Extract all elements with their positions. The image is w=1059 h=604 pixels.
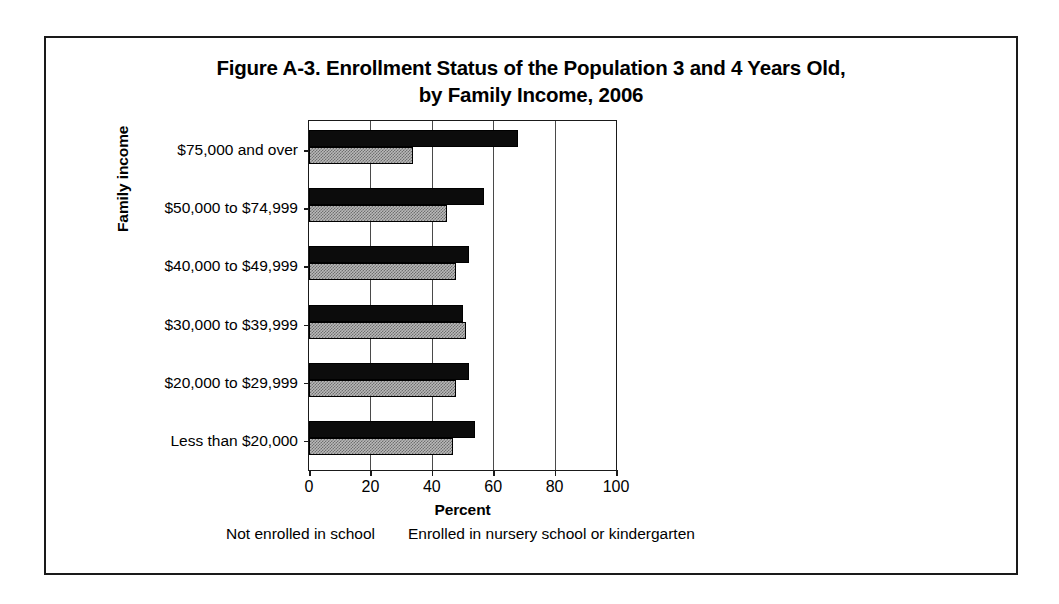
legend-entry-enrolled: Enrolled in nursery school or kindergart…: [408, 525, 695, 544]
x-tick-label-80: 80: [546, 479, 564, 495]
plot-area: Percent 020406080100$75,000 and over$50,…: [308, 120, 617, 471]
x-tick-60: [493, 470, 495, 476]
x-tick-label-100: 100: [603, 479, 630, 495]
bar-gray: [309, 263, 456, 280]
x-tick-40: [432, 470, 434, 476]
x-tick-label-20: 20: [361, 479, 379, 495]
y-axis-label: $30,000 to $39,999: [164, 317, 298, 333]
chart-title-line-2: by Family Income, 2006: [46, 81, 1016, 108]
bar-gray: [309, 380, 456, 397]
legend-entry-not-enrolled: Not enrolled in school: [226, 525, 375, 544]
bar-black: [309, 363, 469, 380]
bar-gray: [309, 147, 413, 164]
bar-black: [309, 421, 475, 438]
bar-black: [309, 305, 463, 322]
bar-black: [309, 246, 469, 263]
bar-group: $40,000 to $49,999: [309, 237, 616, 295]
y-axis-label: $75,000 and over: [177, 142, 298, 158]
y-axis-label: $40,000 to $49,999: [164, 258, 298, 274]
x-axis-title: Percent: [309, 501, 616, 519]
x-tick-0: [309, 470, 311, 476]
x-tick-label-60: 60: [484, 479, 502, 495]
x-tick-label-0: 0: [305, 479, 314, 495]
bar-group: $75,000 and over: [309, 121, 616, 179]
chart-legend: Not enrolled in school Enrolled in nurse…: [226, 525, 866, 547]
chart-title: Figure A-3. Enrollment Status of the Pop…: [46, 54, 1016, 108]
bar-gray: [309, 438, 453, 455]
bar-group: $20,000 to $29,999: [309, 354, 616, 412]
bar-gray: [309, 322, 466, 339]
y-axis-title: Family income: [114, 126, 132, 232]
x-tick-label-40: 40: [423, 479, 441, 495]
figure-frame: Figure A-3. Enrollment Status of the Pop…: [44, 36, 1018, 575]
bar-black: [309, 130, 518, 147]
bar-black: [309, 188, 484, 205]
bar-group: $50,000 to $74,999: [309, 179, 616, 237]
chart-title-line-1: Figure A-3. Enrollment Status of the Pop…: [46, 54, 1016, 81]
y-axis-label: Less than $20,000: [170, 433, 298, 449]
y-axis-label: $50,000 to $74,999: [164, 200, 298, 216]
y-axis-label: $20,000 to $29,999: [164, 375, 298, 391]
bar-gray: [309, 205, 447, 222]
x-tick-100: [616, 470, 618, 476]
bar-group: $30,000 to $39,999: [309, 296, 616, 354]
bar-group: Less than $20,000: [309, 412, 616, 470]
x-tick-20: [370, 470, 372, 476]
x-tick-80: [555, 470, 557, 476]
